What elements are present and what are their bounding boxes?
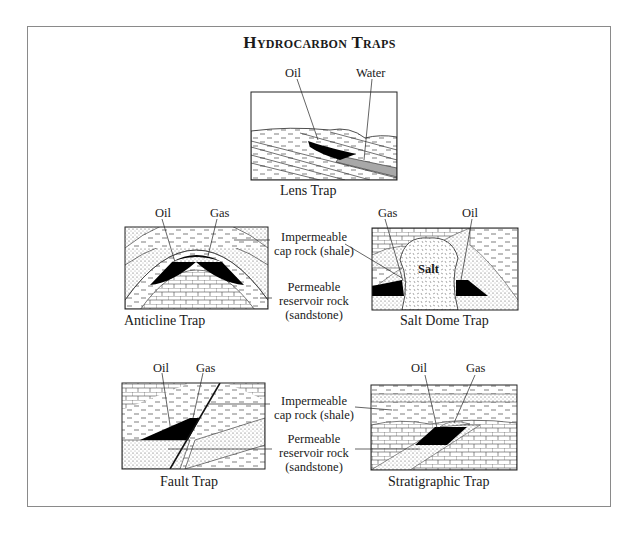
fault-oil-label: Oil xyxy=(153,361,169,375)
reservoir-rock-label-bottom: Permeable reservoir rock (sandstone) xyxy=(272,432,356,474)
salt-dome-trap-diagram xyxy=(372,228,518,310)
lens-oil-label: Oil xyxy=(285,66,301,80)
fault-gas-label: Gas xyxy=(196,361,215,375)
stratigraphic-trap-diagram xyxy=(371,385,517,470)
reservoir-rock-label-top: Permeable reservoir rock (sandstone) xyxy=(272,280,356,322)
strat-trap-caption: Stratigraphic Trap xyxy=(388,474,490,490)
strat-gas-label: Gas xyxy=(466,361,485,375)
saltdome-salt-label: Salt xyxy=(418,262,439,276)
lens-water-label: Water xyxy=(356,66,386,80)
saltdome-gas-label: Gas xyxy=(378,206,397,220)
strat-oil-label: Oil xyxy=(411,361,427,375)
anticline-oil-label: Oil xyxy=(155,206,171,220)
cap-rock-label-bottom: Impermeable cap rock (shale) xyxy=(272,394,356,422)
saltdome-oil-label: Oil xyxy=(462,206,478,220)
lens-trap-caption: Lens Trap xyxy=(280,183,336,199)
saltdome-trap-caption: Salt Dome Trap xyxy=(400,313,489,329)
anticline-trap-diagram xyxy=(125,219,268,310)
anticline-gas-label: Gas xyxy=(210,206,229,220)
fault-trap-caption: Fault Trap xyxy=(160,474,218,490)
cap-rock-label-top: Impermeable cap rock (shale) xyxy=(272,230,356,258)
lens-trap-diagram xyxy=(251,92,397,180)
anticline-trap-caption: Anticline Trap xyxy=(124,313,205,329)
fault-trap-diagram xyxy=(122,383,265,469)
